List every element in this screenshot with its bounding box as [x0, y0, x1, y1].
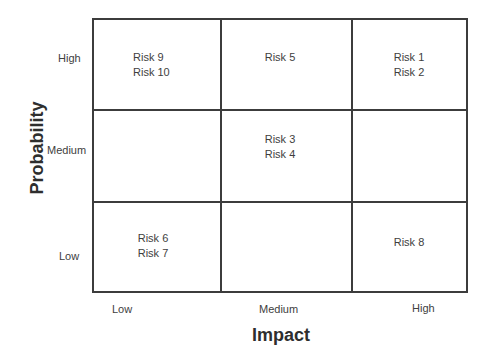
cell-medium-medium: Risk 3 Risk 4 [250, 132, 310, 162]
cell-low-low: Risk 6 Risk 7 [123, 231, 183, 261]
risk-label: Risk 1 [379, 50, 439, 65]
x-tick-medium: Medium [259, 303, 298, 316]
y-tick-high: High [58, 52, 81, 65]
risk-label: Risk 9 [133, 50, 170, 65]
cell-high-medium: Risk 5 [250, 50, 310, 65]
x-tick-high: High [412, 302, 435, 315]
risk-label: Risk 8 [379, 235, 439, 250]
grid-divider-horizontal-1 [94, 109, 466, 111]
x-tick-low: Low [112, 303, 132, 316]
grid-divider-horizontal-2 [94, 201, 466, 203]
risk-label: Risk 3 [250, 132, 310, 147]
cell-high-low: Risk 9 Risk 10 [133, 50, 170, 80]
risk-label: Risk 4 [250, 147, 310, 162]
y-tick-low: Low [59, 250, 79, 263]
cell-high-high: Risk 1 Risk 2 [379, 50, 439, 80]
cell-low-high: Risk 8 [379, 235, 439, 250]
y-tick-medium: Medium [47, 144, 86, 157]
grid-divider-vertical-1 [220, 20, 222, 291]
risk-label: Risk 10 [133, 65, 170, 80]
y-axis-title: Probability [27, 101, 48, 194]
risk-label: Risk 5 [250, 50, 310, 65]
grid-divider-vertical-2 [351, 20, 353, 291]
risk-label: Risk 6 [123, 231, 183, 246]
risk-label: Risk 2 [379, 65, 439, 80]
risk-label: Risk 7 [123, 246, 183, 261]
x-axis-title: Impact [252, 325, 310, 346]
